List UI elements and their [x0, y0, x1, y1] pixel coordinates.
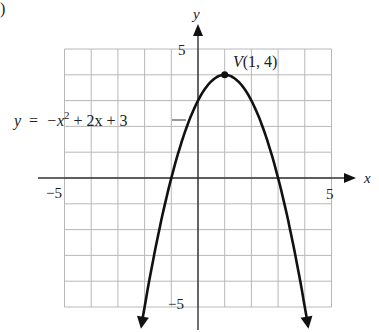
- vertex-label: V(1, 4): [233, 53, 277, 71]
- x-tick-max: 5: [326, 186, 334, 202]
- vertex-coords: (1, 4): [243, 53, 278, 71]
- y-axis-arrow-icon: [193, 24, 203, 36]
- y-tick-max: 5: [178, 42, 186, 58]
- vertex-point: [221, 71, 228, 78]
- x-axis-label: x: [363, 170, 371, 186]
- parabola-graph: ) y x 5 −5 −5 5 V(1, 4) y = −x2+ 2x + 3: [0, 0, 379, 332]
- curve-arrow-right-icon: [301, 316, 313, 329]
- y-axis-label: y: [191, 6, 200, 22]
- curve-arrow-left-icon: [137, 316, 149, 329]
- x-axis-arrow-icon: [344, 173, 356, 183]
- y-tick-min: −5: [168, 296, 184, 312]
- x-tick-min: −5: [46, 185, 62, 201]
- panel-marker: ): [0, 0, 5, 18]
